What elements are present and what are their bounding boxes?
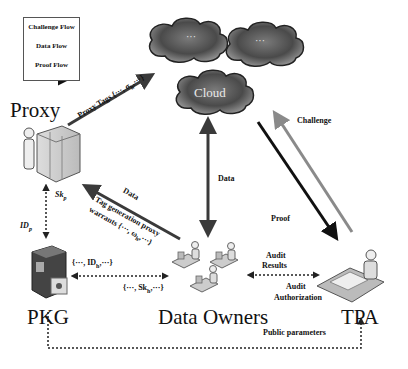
skp-label: Skp	[55, 190, 66, 201]
tpa-label: TPA	[341, 305, 379, 330]
legend-data-flow: Data Flow	[24, 42, 79, 50]
legend-box: Challenge Flow Data Flow Proof Flow	[23, 17, 80, 81]
pkg-label: PKG	[27, 305, 69, 330]
challenge-label: Challenge	[297, 116, 331, 125]
audit-results-label-1: Audit	[266, 251, 286, 260]
tpa-icon	[317, 250, 384, 302]
arrow-proof	[258, 122, 335, 236]
audit-authorization-label-2: Authorization	[274, 293, 322, 302]
audit-authorization-label-1: Audit	[286, 282, 306, 291]
audit-results-label-2: Results	[262, 261, 287, 270]
data-owners-icon	[172, 242, 238, 293]
cloud-1-dots: ···	[186, 31, 196, 42]
public-parameters-label: Public parameters	[263, 328, 326, 337]
cloud-label: Cloud	[194, 85, 226, 101]
proof-label: Proof	[271, 214, 290, 223]
skh-label: {···, Skh,···}	[123, 283, 164, 294]
data-owners-label: Data Owners	[158, 305, 268, 330]
legend-proof-flow: Proof Flow	[24, 61, 79, 69]
pkg-icon	[32, 246, 67, 298]
legend-challenge-flow: Challenge Flow	[24, 23, 79, 31]
data-cloud-label: Data	[218, 174, 234, 183]
cloud-2-dots: ···	[255, 35, 265, 46]
idh-label: {···, IDh,···}	[72, 258, 113, 269]
proxy-icon	[24, 126, 80, 182]
idp-label: IDp	[20, 221, 32, 232]
proxy-label: Proxy	[10, 98, 60, 123]
